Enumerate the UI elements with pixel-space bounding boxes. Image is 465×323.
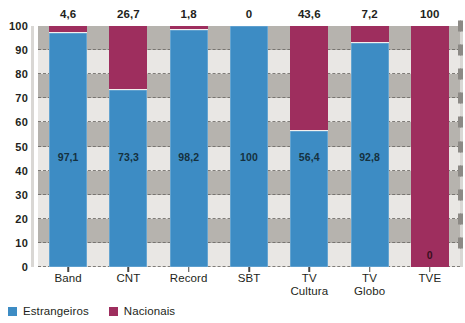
- stacked-bar-chart: 4,626,71,8043,67,2100 010203040506070809…: [0, 0, 465, 323]
- x-axis-label-line: TV: [339, 272, 399, 285]
- segment-estrangeiros: [230, 26, 268, 267]
- bar-value-label: 73,3: [109, 151, 147, 163]
- y-tick-label: 60: [15, 116, 28, 128]
- x-axis-label-sbt: SBT: [219, 272, 279, 285]
- bar-value-label: 97,1: [49, 151, 87, 163]
- segment-nacionais: [411, 26, 449, 267]
- x-axis-label-band: Band: [38, 272, 98, 285]
- segment-divider: [351, 42, 389, 44]
- x-axis-label-line: SBT: [219, 272, 279, 285]
- x-axis-label-line: TVE: [400, 272, 460, 285]
- x-axis-label-line: TV: [279, 272, 339, 285]
- x-axis-label-record: Record: [159, 272, 219, 285]
- bar-value-label: 100: [230, 151, 268, 163]
- y-tick-label: 50: [15, 141, 28, 153]
- segment-estrangeiros: [109, 90, 147, 267]
- segment-divider: [49, 32, 87, 34]
- y-tick-label: 90: [15, 44, 28, 56]
- segment-divider: [109, 89, 147, 91]
- legend-swatch-icon: [109, 307, 118, 316]
- top-value-label: 4,6: [38, 8, 98, 20]
- legend-swatch-icon: [8, 307, 17, 316]
- top-value-label: 1,8: [159, 8, 219, 20]
- right-tick-mark: [460, 237, 463, 248]
- x-axis-label-line: Globo: [339, 285, 399, 298]
- segment-divider: [170, 29, 208, 31]
- top-value-label: 100: [400, 8, 460, 20]
- right-tick-mark: [460, 45, 463, 56]
- top-value-label: 43,6: [279, 8, 339, 20]
- x-axis-label-line: Band: [38, 272, 98, 285]
- bar-value-label: 0: [411, 249, 449, 261]
- y-axis-line: [31, 26, 34, 267]
- x-axis-label-tv-cultura: TVCultura: [279, 272, 339, 298]
- chart-legend: EstrangeirosNacionais: [8, 303, 195, 319]
- legend-label: Estrangeiros: [23, 305, 89, 317]
- segment-nacionais: [351, 26, 389, 43]
- legend-item-estrangeiros[interactable]: Estrangeiros: [8, 305, 89, 317]
- x-axis-label-line: Record: [159, 272, 219, 285]
- bar-tve[interactable]: 0: [411, 26, 449, 267]
- top-value-label: 7,2: [339, 8, 399, 20]
- bar-value-label: 56,4: [290, 151, 328, 163]
- top-value-label: 26,7: [98, 8, 158, 20]
- top-value-labels: 4,626,71,8043,67,2100: [38, 8, 460, 24]
- x-axis-label-cnt: CNT: [98, 272, 158, 285]
- right-tick-mark: [460, 189, 463, 200]
- y-tick-label: 0: [22, 261, 28, 273]
- plot-area: 97,173,398,210056,492,80: [38, 26, 460, 267]
- y-tick-label: 40: [15, 165, 28, 177]
- legend-item-nacionais[interactable]: Nacionais: [109, 305, 175, 317]
- y-axis: 0102030405060708090100: [0, 26, 38, 267]
- x-axis-label-line: CNT: [98, 272, 158, 285]
- x-axis: BandCNTRecordSBTTVCulturaTVGloboTVE: [38, 267, 460, 301]
- bar-record[interactable]: 98,2: [170, 26, 208, 267]
- segment-estrangeiros: [170, 30, 208, 267]
- legend-label: Nacionais: [124, 305, 175, 317]
- x-axis-label-line: Cultura: [279, 285, 339, 298]
- x-axis-label-tv-globo: TVGlobo: [339, 272, 399, 298]
- bar-cnt[interactable]: 73,3: [109, 26, 147, 267]
- y-tick-label: 10: [15, 237, 28, 249]
- bar-value-label: 98,2: [170, 151, 208, 163]
- segment-nacionais: [290, 26, 328, 131]
- bar-tv-globo[interactable]: 92,8: [351, 26, 389, 267]
- top-value-label: 0: [219, 8, 279, 20]
- bar-sbt[interactable]: 100: [230, 26, 268, 267]
- right-tick-mark: [460, 69, 463, 80]
- segment-divider: [290, 130, 328, 132]
- bar-band[interactable]: 97,1: [49, 26, 87, 267]
- segment-estrangeiros: [49, 33, 87, 267]
- bar-tv-cultura[interactable]: 56,4: [290, 26, 328, 267]
- right-tick-mark: [460, 165, 463, 176]
- right-tick-mark: [460, 213, 463, 224]
- y-tick-label: 70: [15, 92, 28, 104]
- x-axis-label-tve: TVE: [400, 272, 460, 285]
- bar-value-label: 92,8: [351, 151, 389, 163]
- right-tick-mark: [460, 141, 463, 152]
- y-tick-label: 100: [9, 20, 28, 32]
- right-tick-mark: [460, 21, 463, 32]
- y-tick-label: 80: [15, 68, 28, 80]
- segment-nacionais: [109, 26, 147, 90]
- y-tick-label: 20: [15, 213, 28, 225]
- right-tick-mark: [460, 93, 463, 104]
- y-tick-label: 30: [15, 189, 28, 201]
- right-tick-mark: [460, 117, 463, 128]
